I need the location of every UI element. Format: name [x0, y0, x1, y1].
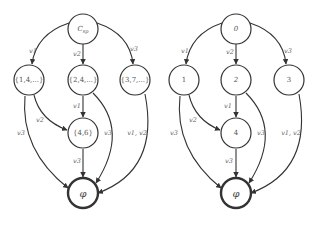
edge-root-n1	[186, 23, 222, 64]
left-diagram: v1 v2 v3 v1 v2 v3 v3 v3 v1, v2 Csp {1,4,…	[14, 14, 150, 208]
edge-n1-sink	[25, 96, 68, 188]
node-3-7: {3,7,...}	[120, 65, 150, 95]
edge-label: v2	[189, 116, 197, 124]
edge-label: v1, v2	[281, 129, 301, 137]
svg-text:4: 4	[234, 129, 239, 137]
node-1: 1	[169, 65, 199, 95]
svg-text:3: 3	[287, 76, 291, 84]
node-2-4: {2,4,...}	[68, 65, 98, 95]
edge-label: v1	[73, 102, 81, 110]
edge-label: v3	[17, 129, 25, 137]
edge-n1-n4	[189, 95, 220, 130]
node-sink: φ	[221, 178, 251, 208]
edge-label: v3	[170, 129, 178, 137]
svg-text:φ: φ	[79, 188, 86, 199]
node-0: 0	[221, 14, 251, 44]
svg-text:1: 1	[182, 76, 186, 84]
svg-text:{2,4,...}: {2,4,...}	[69, 76, 98, 84]
graph-diagrams: v1 v2 v3 v1 v2 v3 v3 v3 v1, v2 Csp {1,4,…	[0, 0, 316, 225]
node-4: 4	[221, 118, 251, 148]
edge-label: v3	[130, 45, 138, 53]
right-diagram: v1 v2 v3 v1 v2 v3 v3 v3 v1, v2 0 1 2 3 4	[169, 14, 304, 208]
edge-label: v3	[284, 47, 292, 55]
node-3: 3	[274, 65, 304, 95]
node-2: 2	[221, 65, 251, 95]
edge-root-n1	[32, 23, 69, 64]
edge-label: v1, v2	[127, 129, 147, 137]
edge-label: v2	[36, 116, 44, 124]
svg-text:φ: φ	[232, 188, 239, 199]
edge-label: v3	[257, 129, 265, 137]
svg-text:2: 2	[233, 76, 239, 84]
edge-root-n3	[250, 23, 286, 64]
svg-text:{4,6}: {4,6}	[73, 129, 93, 137]
svg-text:0: 0	[234, 25, 239, 33]
edge-label: v2	[73, 50, 81, 58]
edge-label: v3	[104, 129, 112, 137]
edge-label: v1	[181, 47, 189, 55]
edge-n1-n4	[34, 95, 67, 130]
node-1-4: {1,4,...}	[14, 65, 44, 95]
edge-label: v1	[224, 102, 232, 110]
svg-text:{1,4,...}: {1,4,...}	[15, 76, 44, 84]
edge-n1-sink	[179, 96, 221, 188]
node-4-6: {4,6}	[68, 118, 98, 148]
svg-text:{3,7,...}: {3,7,...}	[121, 76, 150, 84]
edge-root-n3	[97, 23, 133, 64]
edge-label: v2	[226, 48, 234, 56]
edge-label: v3	[225, 157, 233, 165]
node-sink: φ	[68, 178, 98, 208]
edge-label: v1	[29, 47, 37, 55]
node-root: Csp	[68, 14, 98, 44]
edge-label: v3	[73, 157, 81, 165]
